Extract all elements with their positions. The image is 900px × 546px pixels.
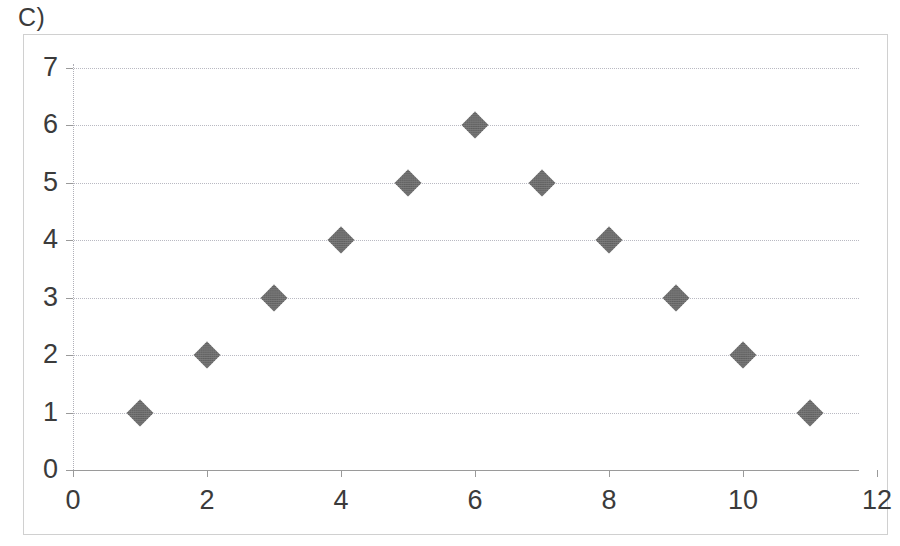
data-point-marker (596, 227, 623, 254)
data-point-marker (462, 112, 489, 139)
data-point-marker (127, 399, 154, 426)
y-axis-tick-label: 7 (18, 54, 58, 81)
x-axis-tick (609, 470, 610, 477)
data-point-marker (663, 284, 690, 311)
x-axis-tick (743, 470, 744, 477)
y-axis-tick-label: 0 (18, 456, 58, 483)
y-gridline (67, 470, 859, 471)
x-axis-tick-label: 12 (847, 487, 900, 514)
data-point-marker (261, 284, 288, 311)
x-axis-tick-label: 8 (579, 487, 639, 514)
x-axis-tick-label: 10 (713, 487, 773, 514)
data-point-marker (395, 169, 422, 196)
x-axis-tick-label: 4 (311, 487, 371, 514)
x-axis-tick-label: 6 (445, 487, 505, 514)
y-gridline (67, 298, 859, 299)
x-axis-tick (73, 470, 74, 477)
data-point-marker (730, 342, 757, 369)
y-axis-tick-label: 3 (18, 284, 58, 311)
y-axis-tick-label: 1 (18, 399, 58, 426)
y-axis-tick (66, 413, 73, 414)
x-axis-tick-label: 0 (43, 487, 103, 514)
y-gridline (67, 240, 859, 241)
y-axis-tick-label: 2 (18, 341, 58, 368)
y-axis-tick (66, 470, 73, 471)
y-axis-tick (66, 355, 73, 356)
scatter-plot: 01234567024681012 (0, 0, 900, 546)
y-axis-tick (66, 240, 73, 241)
y-axis-tick-label: 6 (18, 111, 58, 138)
x-axis-tick (207, 470, 208, 477)
y-axis-tick (66, 68, 73, 69)
y-axis-tick (66, 183, 73, 184)
y-axis-tick-label: 5 (18, 169, 58, 196)
y-axis-line (73, 64, 74, 476)
data-point-marker (194, 342, 221, 369)
x-axis-tick (877, 470, 878, 477)
data-point-marker (529, 169, 556, 196)
x-axis-tick (475, 470, 476, 477)
data-point-marker (328, 227, 355, 254)
y-axis-tick (66, 125, 73, 126)
y-gridline (67, 183, 859, 184)
data-point-marker (797, 399, 824, 426)
y-gridline (67, 68, 859, 69)
x-axis-tick (341, 470, 342, 477)
x-axis-tick-label: 2 (177, 487, 237, 514)
y-gridline (67, 413, 859, 414)
y-axis-tick-label: 4 (18, 226, 58, 253)
y-axis-tick (66, 298, 73, 299)
